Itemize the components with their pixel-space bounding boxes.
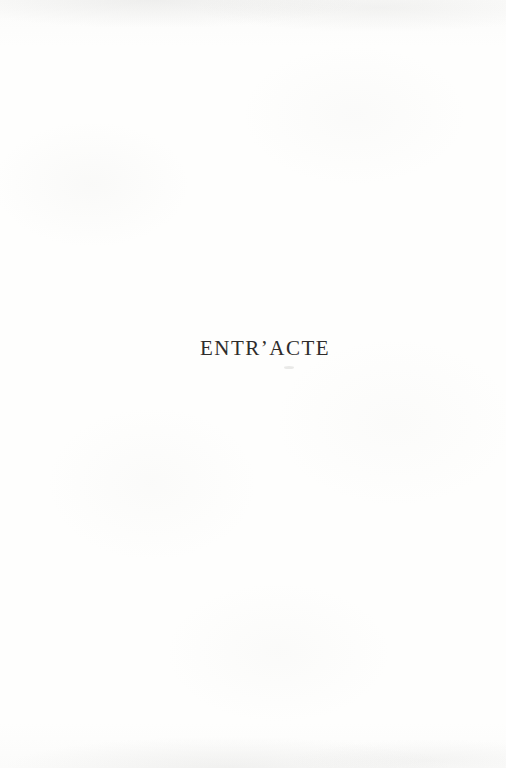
book-page: ENTR’ACTE <box>0 0 506 768</box>
paper-smudge <box>284 366 294 369</box>
entracte-heading: ENTR’ACTE <box>0 336 506 361</box>
